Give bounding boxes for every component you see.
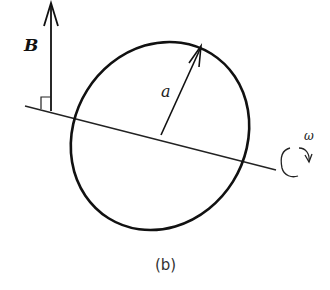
- figure-caption: (b): [155, 256, 176, 274]
- rotation-axis: [25, 106, 276, 170]
- label-a: a: [161, 82, 171, 101]
- label-B: B: [23, 35, 38, 55]
- right-angle-marker: [41, 97, 51, 109]
- rotation-arrow-icon: [281, 148, 298, 177]
- radius-arrowhead-icon: [189, 46, 201, 67]
- diagram-canvas: B a ω (b): [0, 0, 330, 290]
- label-omega: ω: [304, 129, 314, 143]
- rotating-loop: [36, 8, 285, 264]
